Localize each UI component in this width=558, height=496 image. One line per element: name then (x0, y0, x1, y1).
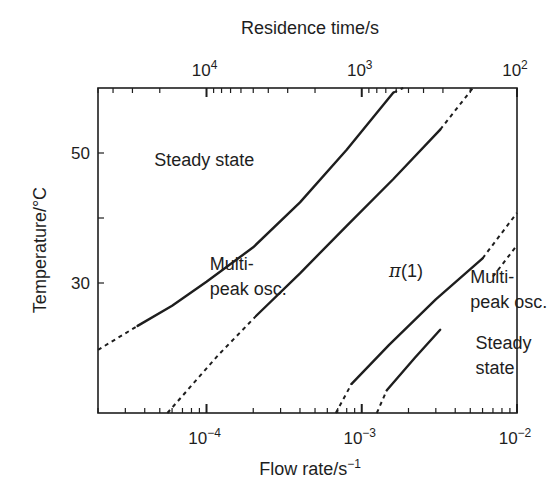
y-axis-title: Temperature/°C (30, 187, 50, 313)
bottom-axis-tick-labels: 10−410−310−2 (188, 426, 531, 448)
boundary-dashed (377, 390, 387, 413)
x-axis-title: Flow rate/s−1 (259, 457, 361, 479)
boundary-dashed (167, 316, 256, 414)
x-tick-label: 10−4 (188, 426, 221, 448)
x2-tick-label: 104 (192, 58, 218, 80)
boundary-dashed-end (440, 88, 473, 130)
region-label: peak osc. (210, 279, 287, 299)
top-axis-title: Residence time/s (241, 18, 379, 38)
phase-diagram-chart: Steady stateMulti-peak osc.π(1)Multi-pea… (0, 0, 558, 496)
top-axis-tick-labels: 104103102 (192, 58, 528, 80)
region-label: state (475, 358, 514, 378)
region-label: peak osc. (470, 292, 547, 312)
left-axis-tick-labels: 5030 (71, 144, 90, 293)
pi1-region-label: π(1) (388, 260, 423, 281)
axis-ticks (98, 88, 517, 413)
boundary-dashed-end (483, 213, 517, 258)
y-tick-label: 30 (71, 274, 90, 293)
boundary-curves (98, 88, 517, 413)
region-label: Steady state (154, 150, 254, 170)
x2-tick-label: 103 (347, 58, 373, 80)
x2-tick-label: 102 (502, 58, 528, 80)
region-label: Steady (475, 333, 531, 353)
region-label: Multi- (470, 267, 514, 287)
region-label: Multi- (210, 254, 254, 274)
x-tick-label: 10−2 (499, 426, 532, 448)
x-tick-label: 10−3 (343, 426, 376, 448)
region-labels: Steady stateMulti-peak osc.π(1)Multi-pea… (154, 150, 547, 378)
boundary-dashed (98, 326, 138, 350)
y-tick-label: 50 (71, 144, 90, 163)
plot-frame (98, 88, 517, 413)
